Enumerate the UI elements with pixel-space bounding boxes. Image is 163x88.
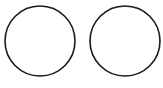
right-circle [90,6,160,76]
diagram-canvas [0,0,163,88]
left-circle [5,6,75,76]
